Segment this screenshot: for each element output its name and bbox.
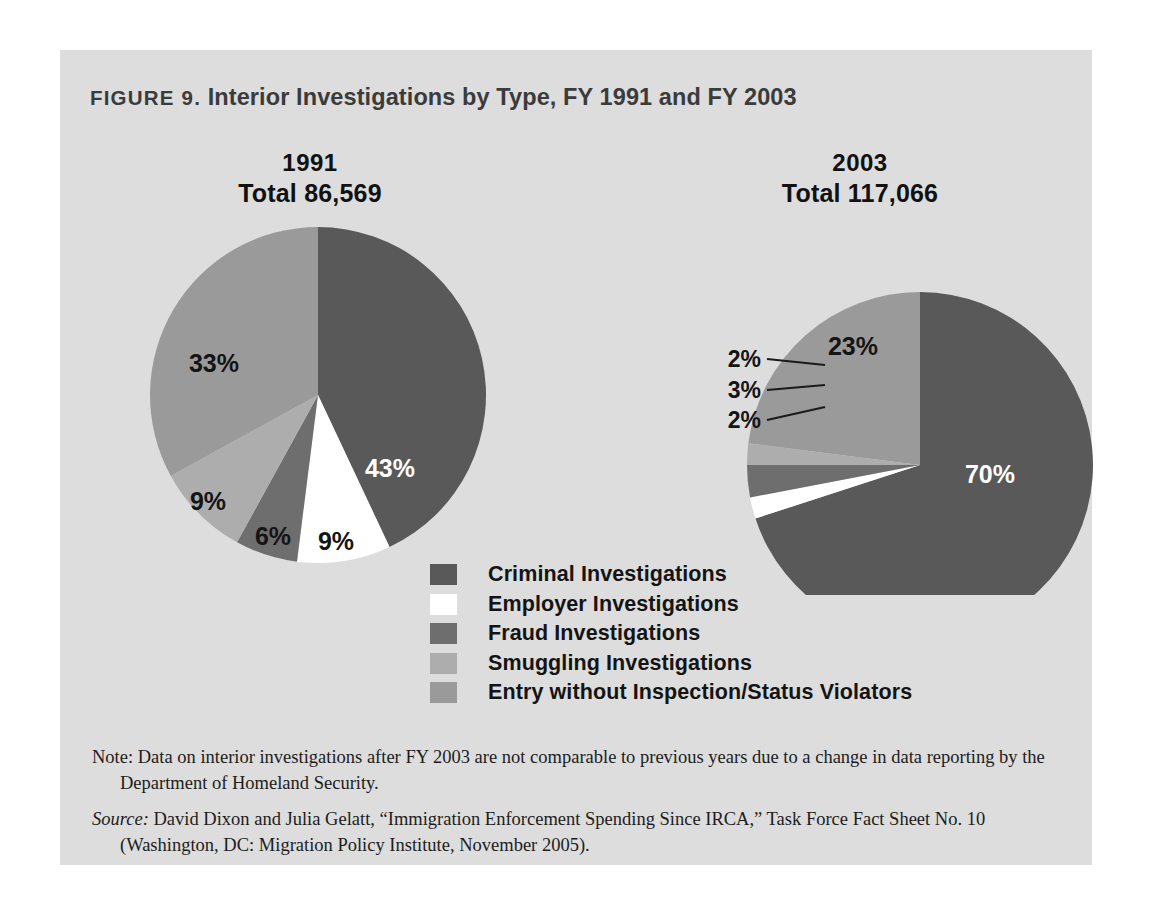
- legend-label-smuggling: Smuggling Investigations: [488, 651, 752, 676]
- source-block: Source: David Dixon and Julia Gelatt, “I…: [92, 807, 1067, 858]
- pie-chart-2003: 70% 23% 2% 3% 2%: [685, 235, 1105, 595]
- figure-number: FIGURE 9.: [90, 86, 201, 109]
- pie-total-1991: Total 86,569: [140, 178, 480, 209]
- figure-title-text: Interior Investigations by Type, FY 1991…: [201, 84, 797, 110]
- pie-label-entry-1991: 33%: [189, 349, 239, 377]
- legend-label-criminal: Criminal Investigations: [488, 562, 727, 587]
- note-text: Data on interior investigations after FY…: [120, 747, 1045, 793]
- pie-label-smuggling-2003: 2%: [728, 346, 761, 372]
- legend: Criminal Investigations Employer Investi…: [430, 560, 912, 708]
- pie-label-fraud-1991: 6%: [255, 522, 291, 550]
- page-title: FIGURE 9. Interior Investigations by Typ…: [90, 84, 797, 111]
- legend-item-employer: Employer Investigations: [430, 590, 912, 620]
- legend-swatch-employer: [430, 594, 457, 615]
- pie-label-criminal-2003: 70%: [965, 460, 1015, 488]
- legend-item-smuggling: Smuggling Investigations: [430, 649, 912, 679]
- legend-swatch-entry: [430, 682, 457, 703]
- legend-label-entry: Entry without Inspection/Status Violator…: [488, 680, 912, 705]
- legend-item-fraud: Fraud Investigations: [430, 619, 912, 649]
- pie-year-2003: 2003: [690, 148, 1030, 178]
- legend-swatch-smuggling: [430, 653, 457, 674]
- pie-1991-svg: 43% 9% 6% 9% 33%: [143, 220, 493, 570]
- pie-label-employer-1991: 9%: [318, 527, 354, 555]
- pie-total-2003: Total 117,066: [690, 178, 1030, 209]
- legend-swatch-fraud: [430, 623, 457, 644]
- footnotes: Note: Data on interior investigations af…: [92, 745, 1067, 869]
- legend-label-fraud: Fraud Investigations: [488, 621, 700, 646]
- pie-heading-2003: 2003 Total 117,066: [690, 148, 1030, 209]
- legend-item-criminal: Criminal Investigations: [430, 560, 912, 590]
- figure-panel: FIGURE 9. Interior Investigations by Typ…: [60, 50, 1092, 865]
- pie-label-entry-2003: 23%: [828, 332, 878, 360]
- note-lead: Note:: [92, 747, 133, 767]
- pie-label-fraud-2003: 3%: [728, 377, 761, 403]
- note-block: Note: Data on interior investigations af…: [92, 745, 1067, 796]
- legend-swatch-criminal: [430, 564, 457, 585]
- pie-chart-1991: 43% 9% 6% 9% 33%: [143, 220, 493, 570]
- pie-year-1991: 1991: [140, 148, 480, 178]
- legend-label-employer: Employer Investigations: [488, 592, 739, 617]
- pie-slice-entry-2003: [748, 292, 920, 465]
- legend-item-entry: Entry without Inspection/Status Violator…: [430, 678, 912, 708]
- source-lead: Source:: [92, 809, 149, 829]
- pie-label-employer-2003: 2%: [728, 407, 761, 433]
- pie-label-criminal-1991: 43%: [365, 454, 415, 482]
- pie-label-smuggling-1991: 9%: [190, 487, 226, 515]
- source-text: David Dixon and Julia Gelatt, “Immigrati…: [120, 809, 985, 855]
- pie-2003-svg: 70% 23% 2% 3% 2%: [685, 235, 1105, 595]
- pie-heading-1991: 1991 Total 86,569: [140, 148, 480, 209]
